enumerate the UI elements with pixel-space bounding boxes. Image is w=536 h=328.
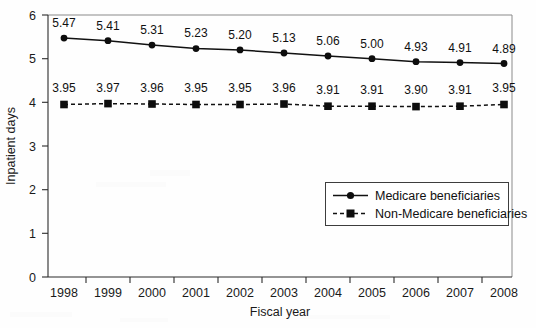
chart-figure: 0 1 2 3 4 5 6 Inpatient days	[0, 0, 536, 328]
x-axis-tick-labels: 1998 1999 2000 2001 2002 2003 2004 2005 …	[50, 286, 518, 300]
point-label: 3.91	[360, 83, 384, 97]
y-tick-label: 3	[29, 140, 36, 154]
point-label: 5.47	[52, 16, 76, 30]
x-axis-title: Fiscal year	[250, 305, 310, 319]
point-label: 5.31	[140, 23, 164, 37]
point-label: 4.91	[448, 41, 472, 55]
x-tick-label: 1998	[50, 286, 78, 300]
x-tick-label: 2006	[402, 286, 430, 300]
plot-frame	[48, 15, 512, 277]
y-axis-ticks	[42, 15, 48, 277]
y-tick-label: 4	[29, 96, 36, 110]
x-tick-label: 2004	[314, 286, 342, 300]
x-axis: 1998 1999 2000 2001 2002 2003 2004 2005 …	[48, 277, 518, 319]
point-label: 5.41	[96, 19, 120, 33]
point-label: 5.20	[228, 28, 252, 42]
y-tick-label: 2	[29, 183, 36, 197]
point-label: 3.96	[272, 81, 296, 95]
series-non-medicare-beneficiaries: 3.95 3.97 3.96 3.95 3.95 3.96 3.91 3.91 …	[52, 81, 516, 110]
series-medicare-beneficiaries: 5.47 5.41 5.31 5.23 5.20 5.13 5.06 5.00 …	[52, 16, 516, 67]
x-tick-label: 2003	[270, 286, 298, 300]
y-axis-tick-labels: 0 1 2 3 4 5 6	[29, 9, 36, 285]
x-tick-label: 2008	[490, 286, 518, 300]
x-tick-label: 2000	[138, 286, 166, 300]
point-label: 3.95	[52, 81, 76, 95]
point-label: 5.06	[316, 34, 340, 48]
point-label: 4.89	[492, 42, 516, 56]
circle-icon	[347, 192, 354, 199]
point-label: 3.96	[140, 81, 164, 95]
series-non-medicare-point-labels: 3.95 3.97 3.96 3.95 3.95 3.96 3.91 3.91 …	[52, 81, 516, 97]
legend-item-label: Non-Medicare beneficiaries	[375, 207, 527, 221]
point-label: 3.95	[228, 81, 252, 95]
point-label: 3.90	[404, 83, 428, 97]
y-tick-label: 6	[29, 9, 36, 23]
point-label: 3.97	[96, 81, 120, 95]
x-axis-ticks	[86, 277, 482, 283]
x-tick-label: 2007	[446, 286, 474, 300]
x-tick-label: 2002	[226, 286, 254, 300]
y-tick-label: 0	[29, 271, 36, 285]
legend-item-label: Medicare beneficiaries	[375, 189, 500, 203]
point-label: 4.93	[404, 40, 428, 54]
point-label: 5.23	[184, 26, 208, 40]
x-tick-label: 2005	[358, 286, 386, 300]
point-label: 3.95	[184, 81, 208, 95]
point-label: 3.95	[492, 81, 516, 95]
y-axis: 0 1 2 3 4 5 6 Inpatient days	[4, 9, 48, 285]
y-tick-label: 1	[29, 227, 36, 241]
x-tick-label: 2001	[182, 286, 210, 300]
chart-legend: Medicare beneficiaries Non-Medicare bene…	[326, 183, 528, 226]
square-icon	[347, 210, 355, 218]
x-tick-label: 1999	[94, 286, 122, 300]
series-non-medicare-markers	[60, 100, 508, 111]
line-chart: 0 1 2 3 4 5 6 Inpatient days	[0, 0, 536, 328]
point-label: 5.00	[360, 37, 384, 51]
y-tick-label: 5	[29, 52, 36, 66]
y-axis-title: Inpatient days	[4, 107, 18, 185]
point-label: 3.91	[448, 83, 472, 97]
point-label: 3.91	[316, 83, 340, 97]
point-label: 5.13	[272, 31, 296, 45]
